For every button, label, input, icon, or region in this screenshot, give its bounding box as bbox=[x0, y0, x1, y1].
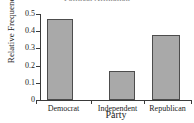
chart-title: Political Affiliation bbox=[0, 0, 194, 2]
y-tick-label: 0.5 bbox=[25, 8, 35, 19]
y-axis-title: Relative Frequency bbox=[6, 0, 18, 66]
bar-chart: Political Affiliation Relative Frequency… bbox=[0, 0, 194, 123]
y-tick-label: 0.3 bbox=[25, 42, 35, 53]
y-tick-mark bbox=[36, 31, 41, 32]
y-tick-mark bbox=[36, 48, 41, 49]
x-tick-mark bbox=[191, 100, 192, 104]
bar-independent bbox=[109, 71, 135, 100]
y-tick-label: 0 bbox=[31, 94, 35, 105]
bar-republican bbox=[152, 35, 180, 100]
y-tick-mark bbox=[36, 66, 41, 67]
bar-democrat bbox=[47, 19, 73, 100]
plot-area: 0 0.1 0.2 0.3 0.4 0.5 Democrat Ind bbox=[40, 14, 192, 100]
y-tick-mark bbox=[36, 83, 41, 84]
y-tick-mark bbox=[36, 14, 41, 15]
y-tick-label: 0.2 bbox=[25, 60, 35, 71]
y-axis-line bbox=[40, 14, 41, 100]
x-axis-title: Party bbox=[40, 109, 192, 120]
x-axis-line bbox=[36, 100, 192, 101]
y-tick-label: 0.4 bbox=[25, 25, 35, 36]
y-tick-label: 0.1 bbox=[25, 77, 35, 88]
